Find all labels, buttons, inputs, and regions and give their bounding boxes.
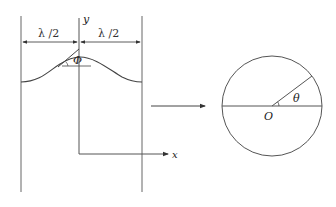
center-label-o: O <box>264 110 273 123</box>
circle-figure: O θ <box>222 56 322 156</box>
angle-label-theta: θ <box>293 92 300 105</box>
dimension-label-left: λ /2 <box>38 27 59 40</box>
angle-arc-phi <box>66 62 68 66</box>
y-axis-label: y <box>82 13 90 26</box>
angle-label-phi: Φ <box>73 54 82 67</box>
angle-arc-theta <box>278 102 279 106</box>
diagram-canvas: y x λ /2 λ /2 Φ O θ <box>0 0 336 207</box>
x-axis-label: x <box>172 149 178 160</box>
dimension-label-right: λ /2 <box>98 27 119 40</box>
wave-figure: y x λ /2 λ /2 Φ <box>21 13 178 192</box>
radius-line <box>272 76 312 106</box>
